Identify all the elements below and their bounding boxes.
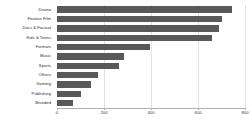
category-axis-labels: DramaFeature FilmDocs & FactualKids & Te… xyxy=(0,5,54,108)
tick-label: 400 xyxy=(148,111,155,115)
category-label: Others xyxy=(38,73,51,77)
bar-row[interactable] xyxy=(57,63,245,69)
plot-area xyxy=(57,5,245,108)
bar-series xyxy=(57,5,245,108)
bar[interactable] xyxy=(57,35,212,41)
bar[interactable] xyxy=(57,81,91,87)
category-label: Drama xyxy=(38,8,51,12)
bar-row[interactable] xyxy=(57,100,245,106)
tick-label: 800 xyxy=(242,111,249,115)
bar-row[interactable] xyxy=(57,91,245,97)
tick-label: 200 xyxy=(101,111,108,115)
x-axis-tick-labels: 0200400600800 xyxy=(57,111,245,119)
category-label: Gaming xyxy=(36,82,51,86)
category-label: Sports xyxy=(39,64,51,68)
category-label: Branded xyxy=(35,101,51,105)
category-label: Docs & Factual xyxy=(23,26,51,30)
bar-row[interactable] xyxy=(57,53,245,59)
category-label: Feature Film xyxy=(27,17,51,21)
bar-row[interactable] xyxy=(57,72,245,78)
bar[interactable] xyxy=(57,63,119,69)
category-label: Publishing xyxy=(32,92,51,96)
bar[interactable] xyxy=(57,6,232,12)
bar[interactable] xyxy=(57,25,219,31)
bar[interactable] xyxy=(57,16,222,22)
bar[interactable] xyxy=(57,44,150,50)
bar[interactable] xyxy=(57,53,124,59)
gridline xyxy=(245,5,246,108)
category-label: Music xyxy=(40,54,51,58)
bar-row[interactable] xyxy=(57,6,245,12)
category-label: Kids & Teens xyxy=(27,36,51,40)
tick-label: 600 xyxy=(195,111,202,115)
bar-row[interactable] xyxy=(57,44,245,50)
bar-row[interactable] xyxy=(57,35,245,41)
bar-row[interactable] xyxy=(57,16,245,22)
bar[interactable] xyxy=(57,91,81,97)
bar-chart: DramaFeature FilmDocs & FactualKids & Te… xyxy=(0,0,252,122)
bar-row[interactable] xyxy=(57,81,245,87)
bar[interactable] xyxy=(57,100,73,106)
category-label: Formats xyxy=(36,45,51,49)
bar[interactable] xyxy=(57,72,98,78)
tick-label: 0 xyxy=(56,111,58,115)
bar-row[interactable] xyxy=(57,25,245,31)
